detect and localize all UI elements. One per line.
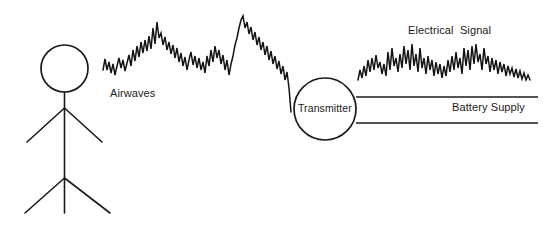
electrical-signal-label: Electrical Signal (408, 25, 491, 36)
transmitter-label: Transmitter (298, 103, 352, 114)
person-legs (25, 178, 110, 213)
stick-figure-person (25, 45, 110, 213)
person-head-icon (41, 45, 88, 92)
airwaves-label: Airwaves (110, 88, 155, 99)
electrical-signal-path (358, 44, 530, 80)
battery-supply-label: Battery Supply (452, 102, 525, 113)
electrical-signal-waveform (358, 44, 530, 80)
diagram-canvas: Airwaves Transmitter Electrical Signal B… (0, 0, 550, 225)
